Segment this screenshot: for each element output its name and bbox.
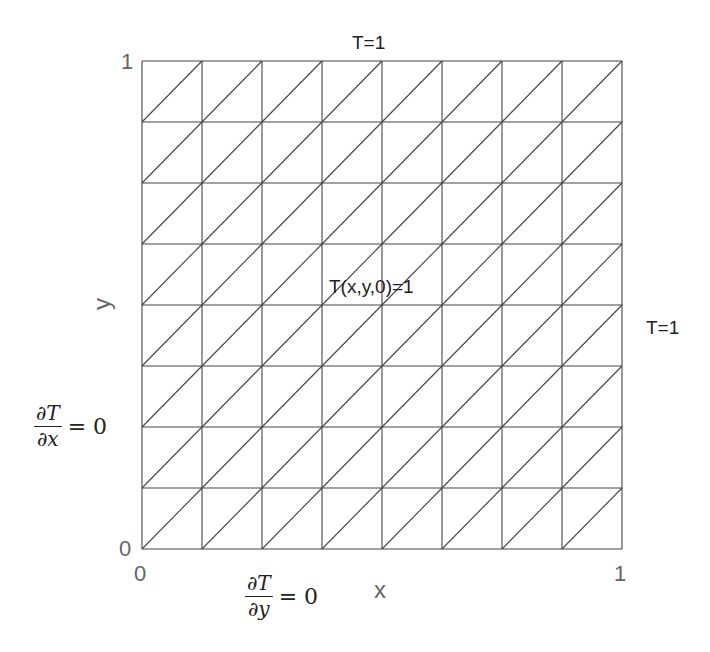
mesh-diagonal-line <box>382 305 442 366</box>
mesh-diagonal-line <box>262 244 322 305</box>
mesh-diagonal-line <box>562 122 622 183</box>
bottom-boundary-condition: ∂T ∂y = 0 <box>245 573 318 620</box>
mesh-diagonal-line <box>142 183 202 244</box>
mesh-diagonal-line <box>382 183 442 244</box>
mesh-diagonal-line <box>442 61 502 122</box>
x-tick-1: 1 <box>614 563 626 585</box>
mesh-diagonal-line <box>502 366 562 427</box>
mesh-diagonal-line <box>442 427 502 488</box>
mesh-diagonal-line <box>322 183 382 244</box>
bottom-bc-fraction: ∂T ∂y <box>245 573 273 620</box>
mesh-diagonal-line <box>562 488 622 549</box>
mesh-diagonal-line <box>562 61 622 122</box>
mesh-diagonal-line <box>202 366 262 427</box>
x-tick-0: 0 <box>134 563 146 585</box>
mesh-diagonal-line <box>562 427 622 488</box>
triangular-mesh <box>0 0 710 652</box>
mesh-diagonal-line <box>262 61 322 122</box>
mesh-diagonal-line <box>322 427 382 488</box>
mesh-diagonal-line <box>382 122 442 183</box>
y-tick-1: 1 <box>121 51 133 73</box>
mesh-diagonal-line <box>202 122 262 183</box>
mesh-diagonal-line <box>202 427 262 488</box>
mesh-diagonal-line <box>142 122 202 183</box>
mesh-diagonal-line <box>202 183 262 244</box>
mesh-diagonal-line <box>202 488 262 549</box>
mesh-diagonal-line <box>382 61 442 122</box>
mesh-diagonal-line <box>322 61 382 122</box>
mesh-diagonal-line <box>442 122 502 183</box>
mesh-diagonal-line <box>142 244 202 305</box>
x-axis-label: x <box>374 578 386 602</box>
mesh-diagonal-line <box>202 61 262 122</box>
mesh-diagonal-line <box>562 305 622 366</box>
mesh-diagonal-line <box>442 244 502 305</box>
initial-condition-label: T(x,y,0)=1 <box>329 277 414 296</box>
mesh-diagonal-line <box>562 244 622 305</box>
mesh-diagonal-line <box>442 305 502 366</box>
mesh-diagonal-line <box>562 183 622 244</box>
mesh-diagonal-line <box>502 183 562 244</box>
mesh-diagonal-line <box>262 366 322 427</box>
bottom-bc-rhs: = 0 <box>279 586 318 608</box>
mesh-diagonal-line <box>322 305 382 366</box>
mesh-diagonal-line <box>382 366 442 427</box>
mesh-diagonal-line <box>442 488 502 549</box>
bottom-bc-numerator: ∂T <box>245 573 273 594</box>
mesh-diagonal-line <box>442 183 502 244</box>
mesh-diagonal-line <box>142 305 202 366</box>
mesh-diagonal-line <box>502 61 562 122</box>
mesh-diagonal-line <box>382 488 442 549</box>
mesh-diagonal-line <box>442 366 502 427</box>
mesh-diagonal-line <box>262 183 322 244</box>
mesh-diagonal-line <box>322 366 382 427</box>
left-boundary-condition: ∂T ∂x = 0 <box>34 403 107 450</box>
mesh-diagonal-line <box>502 122 562 183</box>
mesh-diagonal-line <box>202 305 262 366</box>
mesh-diagonal-line <box>142 366 202 427</box>
mesh-diagonal-line <box>142 427 202 488</box>
y-tick-0: 0 <box>119 538 131 560</box>
mesh-diagonal-line <box>562 366 622 427</box>
mesh-diagonal-line <box>502 244 562 305</box>
mesh-diagonal-line <box>262 488 322 549</box>
y-axis-label: y <box>90 298 114 310</box>
bottom-bc-denominator: ∂y <box>246 599 272 620</box>
mesh-diagonal-line <box>382 427 442 488</box>
left-bc-rhs: = 0 <box>68 416 107 438</box>
left-bc-fraction: ∂T ∂x <box>34 403 62 450</box>
top-boundary-label: T=1 <box>352 33 385 52</box>
mesh-diagonal-line <box>322 122 382 183</box>
mesh-diagonal-line <box>262 427 322 488</box>
mesh-lines <box>142 61 622 549</box>
mesh-diagonal-line <box>502 488 562 549</box>
mesh-diagonal-line <box>502 427 562 488</box>
left-bc-denominator: ∂x <box>35 429 61 450</box>
mesh-diagonal-line <box>142 61 202 122</box>
mesh-diagonal-line <box>142 488 202 549</box>
mesh-diagonal-line <box>502 305 562 366</box>
right-boundary-label: T=1 <box>646 318 679 337</box>
left-bc-numerator: ∂T <box>34 403 62 424</box>
mesh-diagonal-line <box>322 488 382 549</box>
mesh-diagonal-line <box>202 244 262 305</box>
mesh-diagonal-line <box>262 305 322 366</box>
mesh-diagonal-line <box>262 122 322 183</box>
